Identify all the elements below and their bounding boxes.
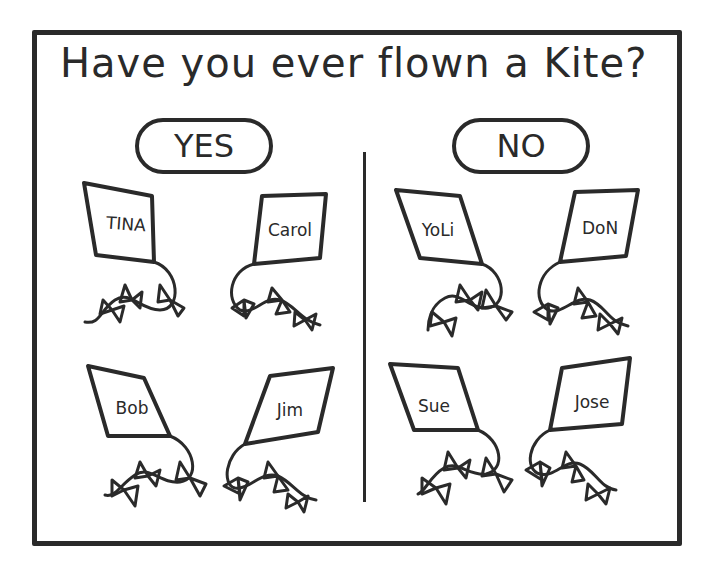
kite-icon (390, 364, 512, 504)
kite-name-jim: Jim (262, 400, 318, 420)
kite-icon (232, 194, 326, 330)
kite-icon (526, 358, 630, 504)
kite-icon (534, 190, 638, 334)
kite-name-jose: Jose (562, 392, 622, 412)
kite-icon (396, 190, 512, 336)
kite-icon (84, 183, 184, 322)
kite-name-yoli: YoLi (410, 220, 466, 240)
kite-icon (224, 368, 333, 512)
kite-name-tina: TINA (95, 212, 156, 236)
kite-name-sue: Sue (406, 396, 462, 416)
kite-name-bob: Bob (104, 398, 160, 418)
kites-drawing (0, 0, 702, 570)
kite-icon (88, 366, 206, 506)
kite-name-carol: Carol (260, 220, 320, 240)
kite-name-don: DoN (572, 218, 628, 238)
